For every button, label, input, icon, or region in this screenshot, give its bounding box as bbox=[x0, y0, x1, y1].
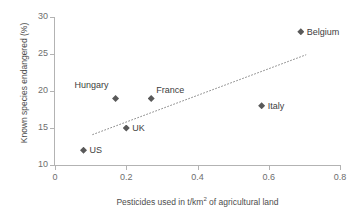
y-tick-label: 10 bbox=[28, 160, 48, 169]
x-tick-mark bbox=[198, 166, 199, 170]
y-tick-mark bbox=[50, 54, 54, 55]
y-tick-mark bbox=[50, 165, 54, 166]
y-tick-mark bbox=[50, 17, 54, 18]
scatter-chart: 1015202530 00.20.40.60.8 USHungaryUKFran… bbox=[0, 0, 355, 215]
x-tick-label: 0.4 bbox=[183, 172, 213, 182]
x-tick-label: 0.8 bbox=[325, 172, 355, 182]
data-point-marker[interactable] bbox=[80, 147, 87, 154]
x-tick-label: 0.6 bbox=[254, 172, 284, 182]
x-axis-title: Pesticides used in t/km2 of agricultural… bbox=[55, 194, 340, 207]
data-point-marker[interactable] bbox=[297, 28, 304, 35]
data-point-label: US bbox=[90, 145, 103, 155]
x-tick-mark bbox=[55, 166, 56, 170]
x-tick-mark bbox=[340, 166, 341, 170]
y-tick-label: 25 bbox=[28, 49, 48, 58]
x-tick-label: 0 bbox=[40, 172, 70, 182]
x-axis-title-text-before: Pesticides used in t/km bbox=[116, 197, 203, 207]
y-tick-label: 30 bbox=[28, 12, 48, 21]
data-point-label: France bbox=[156, 85, 184, 95]
data-point-marker[interactable] bbox=[148, 95, 155, 102]
y-tick-label: 15 bbox=[28, 123, 48, 132]
x-tick-mark bbox=[269, 166, 270, 170]
y-tick-mark bbox=[50, 128, 54, 129]
data-point-marker[interactable] bbox=[258, 102, 265, 109]
x-axis-title-text-after: of agricultural land bbox=[207, 197, 279, 207]
y-tick-label: 20 bbox=[28, 86, 48, 95]
y-axis-title: Known species endangered (%) bbox=[19, 3, 29, 163]
trendline-segment bbox=[92, 55, 306, 135]
x-tick-label: 0.2 bbox=[111, 172, 141, 182]
data-point-label: UK bbox=[132, 123, 145, 133]
data-point-label: Belgium bbox=[307, 27, 340, 37]
x-tick-mark bbox=[126, 166, 127, 170]
data-point-marker[interactable] bbox=[123, 125, 130, 132]
data-point-label: Hungary bbox=[75, 80, 109, 90]
y-tick-mark bbox=[50, 91, 54, 92]
data-point-label: Italy bbox=[268, 101, 285, 111]
trendline bbox=[55, 17, 340, 165]
data-point-marker[interactable] bbox=[112, 95, 119, 102]
plot-area: USHungaryUKFranceItalyBelgium bbox=[55, 17, 340, 165]
